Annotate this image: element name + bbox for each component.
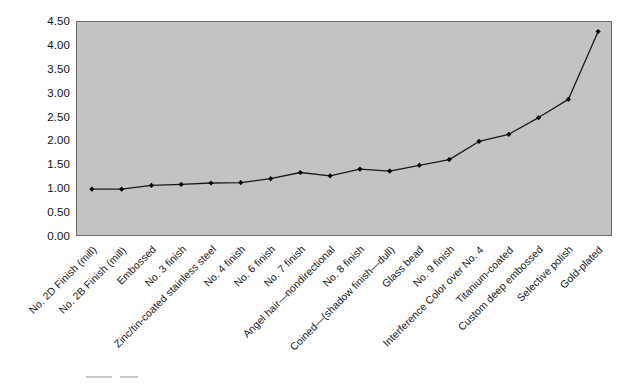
y-axis: 4.504.003.503.002.502.001.501.000.500.00 [26, 13, 70, 245]
data-point-marker [89, 187, 94, 192]
scan-artifact [120, 376, 138, 378]
data-point-marker [208, 180, 213, 185]
y-tick-label: 4.50 [26, 15, 70, 27]
data-point-marker [417, 163, 422, 168]
data-point-marker [506, 132, 511, 137]
data-point-marker [357, 167, 362, 172]
data-point-marker [268, 176, 273, 181]
y-tick-label: 4.00 [26, 39, 70, 51]
data-point-marker [238, 180, 243, 185]
y-tick-label: 3.50 [26, 63, 70, 75]
plot-area [76, 21, 612, 236]
y-tick-label: 2.00 [26, 134, 70, 146]
line-chart: 4.504.003.503.002.502.001.501.000.500.00… [0, 0, 641, 392]
data-point-marker [179, 182, 184, 187]
data-point-marker [149, 183, 154, 188]
scan-artifact [86, 376, 112, 378]
x-axis: No. 2D Finish (mill)No. 2B Finish (mill)… [0, 240, 641, 390]
y-tick-label: 3.00 [26, 87, 70, 99]
y-tick-label: 1.00 [26, 182, 70, 194]
data-series-line [77, 22, 613, 237]
data-point-marker [298, 170, 303, 175]
y-tick-label: 0.50 [26, 206, 70, 218]
data-point-marker [328, 173, 333, 178]
data-point-marker [596, 29, 601, 34]
y-tick-label: 2.50 [26, 111, 70, 123]
data-point-marker [119, 187, 124, 192]
y-tick-label: 1.50 [26, 158, 70, 170]
data-point-marker [387, 168, 392, 173]
